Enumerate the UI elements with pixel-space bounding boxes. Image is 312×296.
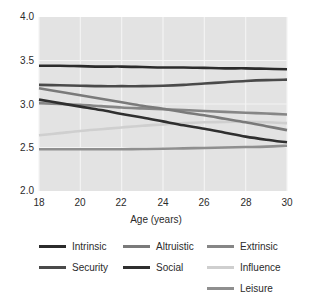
legend-label: Altruistic [156, 242, 194, 252]
legend-item-social[interactable]: Social [123, 257, 207, 278]
legend-label: Influence [240, 263, 281, 273]
legend-swatch-icon [207, 266, 234, 269]
legend-item-extrinsic[interactable]: Extrinsic [207, 236, 299, 257]
legend-swatch-icon [123, 266, 150, 269]
legend-item-influence[interactable]: Influence [207, 257, 299, 278]
legend-swatch-icon [207, 245, 234, 248]
legend-swatch-icon [207, 287, 234, 290]
legend-label: Extrinsic [240, 242, 278, 252]
legend-item-security[interactable]: Security [39, 257, 123, 278]
legend-swatch-icon [39, 245, 66, 248]
legend-swatch-icon [123, 245, 150, 248]
legend-item-intrinsic[interactable]: Intrinsic [39, 236, 123, 257]
legend-label: Leisure [240, 284, 273, 294]
legend-item-leisure[interactable]: Leisure [207, 278, 299, 296]
legend-item-altruistic[interactable]: Altruistic [123, 236, 207, 257]
legend-label: Social [156, 263, 183, 273]
legend-label: Intrinsic [72, 242, 106, 252]
chart-legend: Intrinsic Altruistic Extrinsic Security … [39, 236, 299, 296]
legend-label: Security [72, 263, 108, 273]
legend-swatch-icon [39, 266, 66, 269]
